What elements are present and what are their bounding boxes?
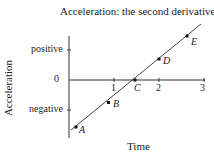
- point-label-c: C: [134, 82, 141, 93]
- y-axis-label: Acceleration: [2, 60, 14, 116]
- point-a: [75, 126, 78, 129]
- acceleration-line: [71, 24, 201, 130]
- x-tick-label-1: 1: [111, 82, 116, 93]
- y-tick-label-negative: negative: [29, 103, 63, 114]
- chart-plot: [0, 0, 214, 161]
- point-e: [186, 35, 189, 38]
- y-tick-label-positive: positive: [31, 43, 63, 54]
- point-b: [107, 101, 110, 104]
- point-label-e: E: [191, 36, 197, 47]
- point-label-a: A: [79, 124, 85, 135]
- point-label-d: D: [163, 55, 170, 66]
- x-tick-label-2: 2: [156, 82, 161, 93]
- y-tick-label-zero: 0: [54, 73, 59, 84]
- x-tick-label-3: 3: [200, 82, 205, 93]
- point-label-b: B: [113, 98, 119, 109]
- point-d: [158, 58, 161, 61]
- x-axis-label: Time: [127, 140, 150, 152]
